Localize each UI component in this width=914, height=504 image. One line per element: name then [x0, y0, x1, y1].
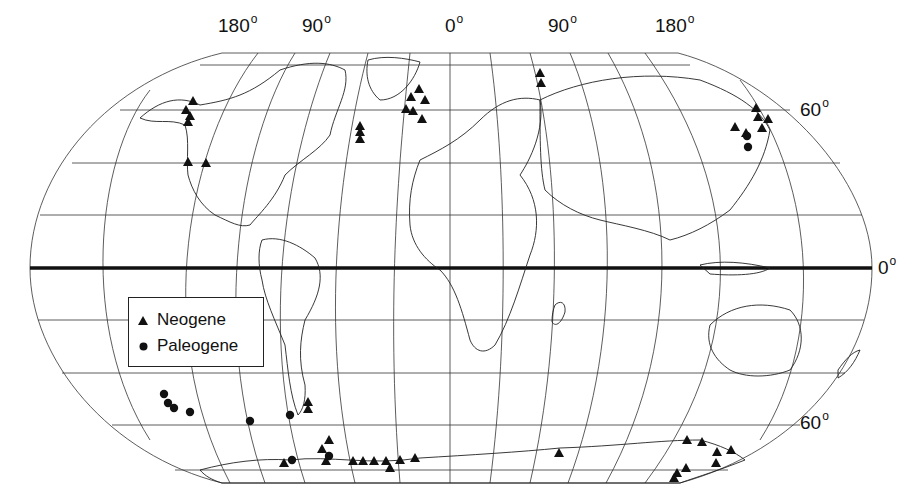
paleogene-marker: [325, 452, 333, 460]
legend-label-paleogene: Paleogene: [157, 336, 238, 356]
neogene-marker: [757, 123, 767, 132]
neogene-marker: [420, 95, 430, 104]
lon-label-90-west: 90o: [302, 16, 331, 35]
lon-label-90-east: 90o: [548, 16, 577, 35]
neogene-marker: [535, 68, 545, 77]
north-america: [140, 63, 346, 226]
lat-label-60-south: 60o: [800, 413, 829, 432]
world-map: [0, 0, 914, 504]
paleogene-marker: [288, 456, 296, 464]
triangle-marker-icon: [137, 310, 149, 330]
markers-layer: [160, 68, 773, 482]
legend-label-neogene: Neogene: [157, 310, 226, 330]
new-zealand: [838, 350, 860, 378]
europe-africa: [409, 98, 541, 351]
neogene-marker: [201, 158, 211, 167]
neogene-marker: [730, 122, 740, 131]
south-america: [259, 239, 320, 415]
neogene-marker: [682, 435, 692, 444]
neogene-marker: [401, 104, 411, 113]
madagascar: [552, 302, 565, 324]
lon-label-180-west: 180o: [218, 16, 257, 35]
paleogene-marker: [246, 417, 254, 425]
neogene-marker: [395, 455, 405, 464]
lon-label-180-east: 180o: [655, 16, 694, 35]
neogene-marker: [317, 444, 327, 453]
neogene-marker: [183, 157, 193, 166]
neogene-marker: [711, 458, 721, 467]
paleogene-marker: [286, 411, 294, 419]
paleogene-marker: [186, 408, 194, 416]
australia: [709, 305, 802, 376]
legend-item-neogene: Neogene: [137, 310, 226, 330]
neogene-marker: [554, 448, 564, 457]
lat-label-0: 0o: [878, 258, 896, 277]
antarctica: [200, 440, 745, 483]
neogene-marker: [681, 463, 691, 472]
legend-item-paleogene: Paleogene: [137, 336, 238, 356]
asia: [540, 76, 770, 240]
lat-label-60-north: 60o: [800, 100, 829, 119]
paleogene-marker: [743, 132, 751, 140]
paleogene-marker: [170, 404, 178, 412]
neogene-marker: [712, 447, 722, 456]
neogene-marker: [188, 96, 198, 105]
legend: Neogene Paleogene: [128, 297, 264, 367]
neogene-marker: [414, 84, 424, 93]
neogene-marker: [417, 114, 427, 123]
neogene-marker: [324, 435, 334, 444]
greenland: [367, 57, 420, 100]
lon-label-0: 0o: [445, 16, 463, 35]
paleogene-marker: [744, 143, 752, 151]
neogene-marker: [410, 453, 420, 462]
paleogene-marker: [160, 390, 168, 398]
neogene-marker: [406, 92, 416, 101]
circle-marker-icon: [137, 336, 149, 356]
